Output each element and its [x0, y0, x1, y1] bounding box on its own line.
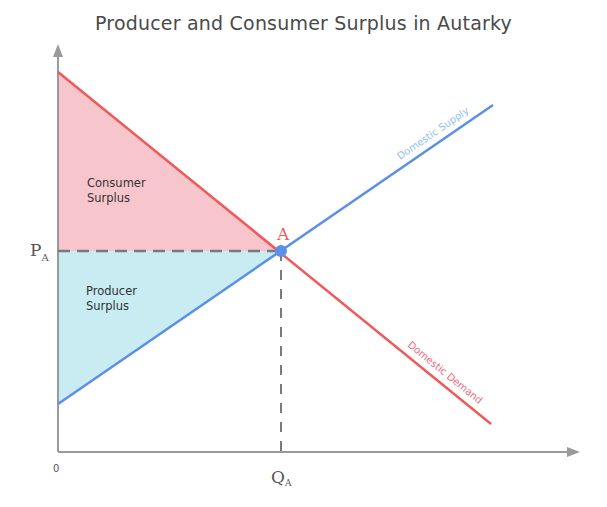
y-axis-arrow-icon — [53, 44, 63, 57]
equilibrium-label: A — [276, 224, 290, 244]
x-axis-arrow-icon — [567, 447, 580, 457]
price-axis-label: PA — [30, 240, 49, 263]
supply-label: Domestic Supply — [395, 105, 471, 162]
demand-label: Domestic Demand — [406, 339, 485, 406]
origin-label: 0 — [53, 463, 59, 474]
chart-plot: A Consumer Surplus Producer Surplus Dome… — [0, 0, 607, 507]
quantity-axis-label: QA — [271, 467, 292, 488]
equilibrium-point — [275, 245, 287, 257]
